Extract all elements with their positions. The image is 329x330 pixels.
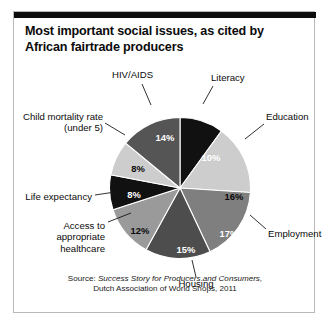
slice-value-label: 10% bbox=[202, 152, 221, 163]
slice-category-label: Life expectancy bbox=[6, 191, 92, 202]
slice-value-label: 8% bbox=[127, 189, 141, 200]
slice-category-label: Access to appropriate healthcare bbox=[19, 220, 105, 254]
leader-line bbox=[142, 84, 151, 105]
source-note: Source: Success Story for Producers and … bbox=[25, 274, 305, 294]
slice-category-label: Education bbox=[266, 111, 309, 122]
slice-value-label: 17% bbox=[220, 228, 239, 239]
slice-category-label: Child mortality rate (under 5) bbox=[17, 111, 103, 134]
slice-category-label: Literacy bbox=[211, 72, 245, 83]
leader-line bbox=[203, 86, 213, 104]
source-title: Success Story for Producers and Consumer… bbox=[98, 274, 262, 283]
slice-value-label: 15% bbox=[177, 244, 196, 255]
leader-line bbox=[250, 215, 266, 229]
figure-card: Most important social issues, as cited b… bbox=[13, 11, 315, 313]
slice-value-label: 12% bbox=[131, 225, 150, 236]
source-prefix: Source: bbox=[68, 274, 98, 283]
slice-value-label: 14% bbox=[156, 132, 175, 143]
source-publisher: Dutch Association of World Shops, 2011 bbox=[93, 284, 237, 293]
slice-value-label: 16% bbox=[225, 191, 244, 202]
pie-chart-plot: 10%16%17%15%12%8%8%14% LiteracyEducation… bbox=[14, 12, 316, 314]
slice-category-label: Employment bbox=[268, 228, 321, 239]
slice-category-label: HIV/AIDS bbox=[112, 69, 153, 80]
slice-value-label: 8% bbox=[131, 163, 145, 174]
